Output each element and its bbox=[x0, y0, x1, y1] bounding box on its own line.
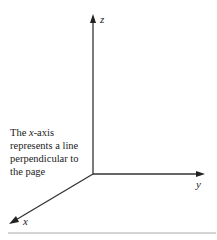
y-label: y bbox=[195, 178, 201, 190]
x-axis-caption: The x-axis represents a line perpendicul… bbox=[10, 126, 92, 178]
axes-diagram: z y x bbox=[0, 0, 217, 240]
x-label: x bbox=[22, 215, 28, 227]
z-label: z bbox=[99, 13, 105, 25]
y-arrowhead-icon bbox=[196, 171, 205, 177]
x-arrowhead-icon bbox=[9, 216, 19, 224]
caption-prefix: The bbox=[10, 127, 29, 138]
x-axis-line bbox=[14, 174, 93, 221]
z-arrowhead-icon bbox=[90, 14, 96, 23]
